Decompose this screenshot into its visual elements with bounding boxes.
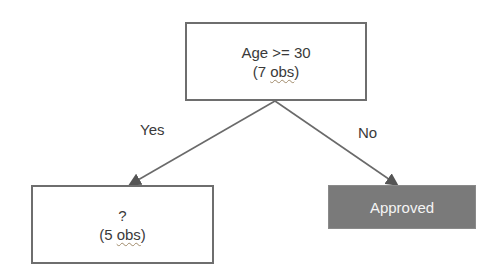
root-node: Age >= 30 (7 obs) (185, 22, 367, 101)
edge-yes (131, 101, 275, 184)
edge-label-yes: Yes (140, 121, 164, 138)
root-condition: Age >= 30 (241, 43, 310, 62)
edge-no (275, 101, 396, 184)
left-node: ? (5 obs) (31, 185, 214, 264)
root-obs: (7 obs) (253, 62, 300, 81)
edge-label-no: No (358, 124, 377, 141)
right-title: Approved (370, 198, 434, 217)
left-title: ? (118, 206, 126, 225)
approved-leaf-node: Approved (328, 185, 476, 229)
left-obs: (5 obs) (99, 225, 146, 244)
